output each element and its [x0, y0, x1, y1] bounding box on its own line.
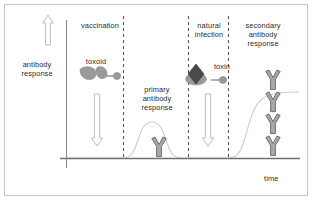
- phase-label-primary-response: primary antibody response: [126, 85, 188, 113]
- toxoid-icon: [80, 67, 121, 80]
- vaccination-down-arrow-icon: [91, 94, 102, 146]
- y-axis-label: antibody response: [8, 60, 66, 78]
- antibody-y-icon-primary: [152, 137, 166, 157]
- phase-label-natural-infection: natural infection: [188, 21, 230, 39]
- toxin-label: toxin: [206, 62, 238, 71]
- toxoid-label: toxoid: [74, 57, 118, 66]
- infection-down-arrow-icon: [202, 94, 213, 146]
- antibody-y-icon-secondary-2: [266, 92, 280, 112]
- x-axis-label: time: [264, 174, 296, 183]
- antibody-y-icon-secondary-1: [266, 70, 280, 90]
- phase-label-secondary-response: secondary antibody response: [230, 21, 296, 49]
- antibody-y-icon-secondary-3: [266, 114, 280, 134]
- antibody-y-icon-secondary-4: [266, 136, 280, 156]
- up-arrow-icon: [43, 15, 53, 45]
- phase-label-vaccination: vaccination: [72, 21, 128, 30]
- figure-container: antibody response vaccination toxoid pri…: [0, 0, 312, 200]
